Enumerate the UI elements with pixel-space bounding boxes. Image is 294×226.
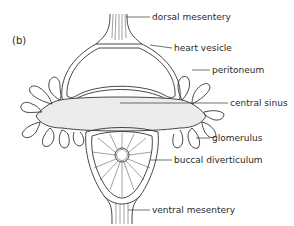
central-sinus [36, 97, 206, 131]
diagram-figure: (b) [0, 0, 294, 226]
label-peritoneum: peritoneum [212, 65, 264, 75]
label-dorsal-mesentery: dorsal mesentery [152, 12, 231, 22]
label-buccal-diverticulum: buccal diverticulum [174, 155, 263, 165]
buccal-diverticulum [86, 128, 159, 205]
label-glomerulus: glomerulus [212, 133, 263, 143]
dorsal-mesentery [96, 14, 142, 44]
heart-vesicle [62, 44, 180, 103]
panel-label: (b) [12, 35, 26, 46]
label-central-sinus: central sinus [230, 98, 288, 108]
label-heart-vesicle: heart vesicle [174, 43, 232, 53]
label-ventral-mesentery: ventral mesentery [152, 205, 236, 215]
